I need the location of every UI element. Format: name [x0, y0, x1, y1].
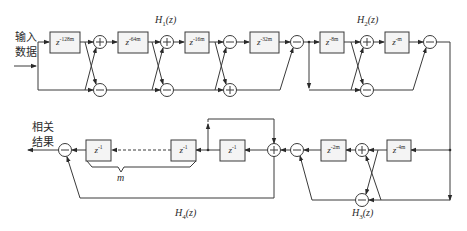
output-label-line1: 相关: [32, 120, 54, 135]
delay-label-64m: z-64m: [118, 36, 148, 47]
output-label-line2: 结果: [32, 135, 54, 150]
delay-label-128m: z-128m: [50, 36, 80, 47]
diagram-wiring: [0, 0, 467, 231]
delay-label-1-a: z-1: [86, 144, 111, 155]
delay-label-4m: z-4m: [387, 144, 411, 155]
stage-label-h1: H1(z): [155, 14, 176, 28]
correlator-block-diagram: 输入 数据 相关 结果 H1(z) H2(z) H3(z) H4(z) m z-…: [0, 0, 467, 231]
input-label: 输入 数据: [15, 30, 37, 60]
brace-label-m: m: [117, 172, 124, 183]
input-label-line2: 数据: [15, 45, 37, 60]
delay-label-16m: z-16m: [185, 36, 209, 47]
stage-label-h2: H2(z): [357, 14, 378, 28]
delay-label-1-c: z-1: [220, 144, 245, 155]
stage-label-h4: H4(z): [175, 207, 196, 221]
output-label: 相关 结果: [32, 120, 54, 150]
delay-label-2m: z-2m: [321, 144, 346, 155]
delay-label-32m: z-32m: [250, 36, 279, 47]
input-label-line1: 输入: [15, 30, 37, 45]
stage-label-h3: H3(z): [352, 207, 373, 221]
delay-label-m: z-m: [385, 36, 409, 47]
delay-label-1-b: z-1: [171, 144, 196, 155]
delay-label-8m: z-8m: [320, 36, 344, 47]
